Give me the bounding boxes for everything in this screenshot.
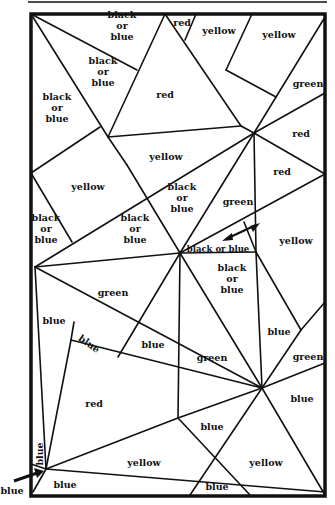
region-label-r23: blue xyxy=(141,339,164,350)
region-label-r4: yellow xyxy=(261,29,296,40)
region-label-r33: blue xyxy=(53,479,76,490)
region-label-r2: red xyxy=(173,17,191,28)
region-label-r20: blackorblue xyxy=(218,262,247,295)
region-label-r13: blackorblue xyxy=(168,181,197,214)
region-label-r8: blackorblue xyxy=(43,91,72,124)
region-label-r11: yellow xyxy=(70,181,105,192)
region-label-r21: blue xyxy=(42,315,65,326)
region-label-r5: blackorblue xyxy=(89,55,118,88)
region-label-r18: black or blue xyxy=(187,244,250,254)
region-borders xyxy=(31,14,325,495)
callout-labels: blue xyxy=(0,485,23,496)
region-label-r28: blue xyxy=(290,393,313,404)
region-label-r14: green xyxy=(223,196,254,207)
region-label-r7: green xyxy=(293,78,324,89)
region-label-r34: blue xyxy=(205,481,228,492)
region-label-r3: yellow xyxy=(201,25,236,36)
region-label-r1: blackorblue xyxy=(108,9,137,42)
region-label-r6: red xyxy=(156,89,174,100)
region-label-r24: blue xyxy=(267,326,290,337)
region-label-r9: red xyxy=(292,128,310,139)
region-label-r22: blue xyxy=(77,332,102,354)
region-label-r25: green xyxy=(197,352,228,363)
region-label-r12: red xyxy=(273,166,291,177)
region-label-r17: yellow xyxy=(278,235,313,246)
region-labels: blackorblueredyellowyellowblackorbluered… xyxy=(32,9,324,492)
region-label-r15: blackorblue xyxy=(32,212,61,245)
map-coloring-diagram: blackorblueredyellowyellowblackorbluered… xyxy=(0,0,335,505)
callout-label-c1: blue xyxy=(0,485,23,496)
region-label-r27: red xyxy=(85,398,103,409)
region-label-r31: yellow xyxy=(126,457,161,468)
arrow-icon xyxy=(222,223,260,241)
region-label-r19: green xyxy=(98,287,129,298)
region-label-r32: yellow xyxy=(248,457,283,468)
region-label-r10: yellow xyxy=(148,151,183,162)
region-label-r30: blue xyxy=(34,442,45,465)
region-label-r29: blue xyxy=(200,421,223,432)
region-label-r16: blackorblue xyxy=(121,212,150,245)
region-label-r26: green xyxy=(293,351,324,362)
